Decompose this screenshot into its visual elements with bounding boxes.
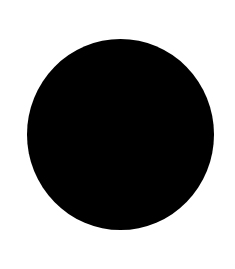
black-circle [27,39,214,230]
